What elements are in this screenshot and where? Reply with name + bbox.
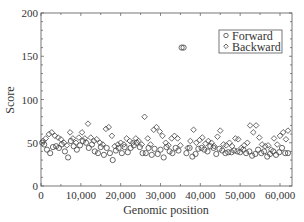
legend: Forward Backward: [219, 29, 282, 54]
forward-point: [86, 145, 91, 150]
backward-point: [283, 136, 289, 142]
forward-point: [110, 157, 115, 162]
y-tick-label: 100: [22, 94, 39, 106]
backward-point: [197, 137, 203, 143]
forward-point: [143, 151, 148, 156]
backward-point: [223, 143, 229, 149]
backward-point: [265, 143, 271, 149]
forward-point: [149, 152, 154, 157]
backward-point: [200, 135, 206, 141]
x-tick-label: 50,000: [225, 189, 256, 201]
x-tick-label: 0: [38, 189, 44, 201]
backward-point: [109, 133, 115, 139]
backward-point: [67, 130, 73, 136]
forward-point: [62, 149, 67, 154]
backward-point: [256, 135, 262, 141]
backward-point: [217, 128, 223, 134]
forward-point: [146, 145, 151, 150]
forward-point: [101, 152, 106, 157]
backward-point: [154, 124, 160, 130]
backward-point: [191, 127, 197, 133]
x-axis-title: Genomic position: [123, 203, 209, 217]
backward-point: [245, 140, 251, 146]
x-tick-label: 10,000: [66, 189, 97, 201]
backward-point: [221, 142, 227, 148]
y-tick-label: 200: [22, 7, 39, 19]
y-tick-label: 150: [22, 50, 39, 62]
forward-point: [119, 151, 124, 156]
forward-point: [214, 151, 219, 156]
forward-point: [152, 146, 157, 151]
forward-point: [196, 146, 201, 151]
data-points: [40, 45, 291, 163]
forward-point: [65, 155, 70, 160]
x-tick-label: 40,000: [185, 189, 216, 201]
backward-point: [235, 136, 241, 142]
forward-point: [50, 144, 55, 149]
backward-point: [124, 136, 130, 142]
y-tick-label: 50: [27, 137, 39, 149]
y-axis-title: Score: [3, 86, 17, 113]
backward-point: [215, 134, 221, 140]
forward-point: [184, 151, 189, 156]
backward-point: [142, 114, 148, 120]
x-tick-label: 20,000: [106, 189, 137, 201]
legend-backward-label: Backward: [232, 40, 281, 54]
backward-point: [151, 127, 157, 133]
forward-point: [158, 147, 163, 152]
x-tick-label: 30,000: [145, 189, 176, 201]
forward-point: [122, 144, 127, 149]
backward-point: [188, 138, 194, 144]
backward-point: [247, 123, 253, 129]
forward-point: [107, 151, 112, 156]
backward-point: [271, 136, 277, 142]
backward-point: [233, 136, 239, 142]
forward-point: [44, 147, 49, 152]
backward-point: [79, 130, 85, 136]
backward-point: [145, 136, 151, 142]
forward-point: [104, 145, 109, 150]
backward-point: [253, 123, 259, 129]
forward-point: [161, 155, 166, 160]
forward-point: [255, 147, 260, 152]
backward-point: [169, 136, 175, 142]
backward-point: [64, 143, 70, 149]
backward-point: [85, 121, 91, 127]
forward-point: [89, 142, 94, 147]
backward-point: [251, 130, 257, 136]
scatter-chart: 050100150200 010,00020,00030,00040,00050…: [0, 0, 304, 222]
backward-point: [172, 133, 178, 139]
x-tick-label: 60,000: [265, 189, 296, 201]
backward-point: [194, 140, 200, 146]
forward-point: [187, 145, 192, 150]
forward-point: [71, 144, 76, 149]
forward-point: [48, 151, 53, 156]
backward-point: [274, 142, 280, 148]
forward-point: [279, 145, 284, 150]
backward-point: [175, 136, 181, 142]
